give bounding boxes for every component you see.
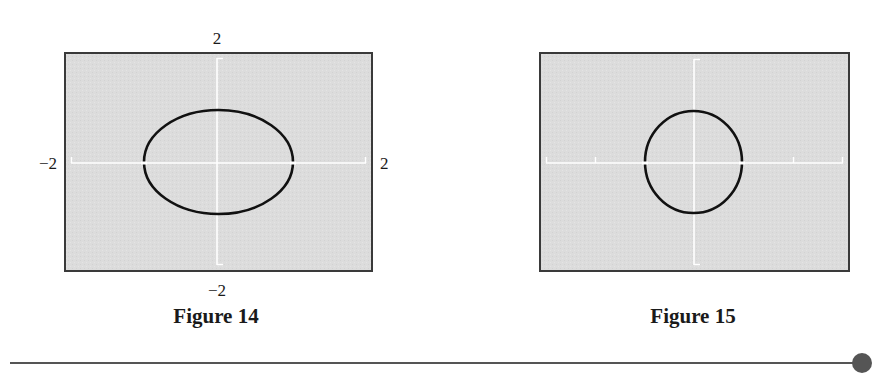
figures-canvas [0,0,883,375]
figure-14-label-bottom: −2 [208,282,226,299]
section-end-dot [852,353,872,373]
figure-14-screen [65,53,372,271]
figure-14-caption: Figure 14 [173,306,258,327]
figure-15-graph [540,53,849,271]
figure-14-label-top: 2 [213,30,222,47]
figure-14-label-left: −2 [39,155,57,172]
figure-14-graph [65,53,372,271]
figure-14-label-right: 2 [380,155,389,172]
figure-15-caption: Figure 15 [650,306,735,327]
